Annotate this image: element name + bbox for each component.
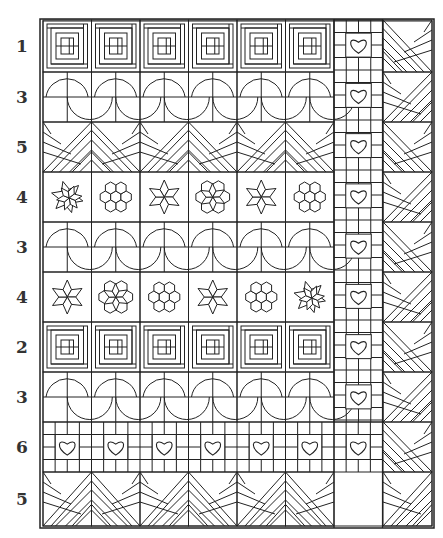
hexagon-flower-icon <box>294 182 325 212</box>
star-icon <box>150 180 179 214</box>
pinwheel-hexagon-icon <box>196 181 230 213</box>
quilt-row-3 <box>43 122 334 172</box>
row-label: 5 <box>12 489 32 509</box>
quilt-row-1 <box>43 20 334 72</box>
quilt-diagram <box>0 0 443 538</box>
diagonal-column <box>375 20 440 526</box>
star-icon <box>247 180 276 214</box>
row-label: 1 <box>12 36 32 56</box>
hexagon-flower-icon <box>100 182 131 212</box>
row-label: 5 <box>12 137 32 157</box>
row-label: 6 <box>12 437 32 457</box>
heart-column <box>334 20 383 422</box>
quilt-row-9 <box>43 422 383 472</box>
quilt-row-7 <box>43 322 334 372</box>
row-label: 3 <box>12 87 32 107</box>
row-label: 2 <box>12 337 32 357</box>
pinwheel-star-icon <box>52 181 83 212</box>
quilt-row-6 <box>43 272 334 322</box>
quilt-row-8 <box>43 372 355 422</box>
row-label: 4 <box>12 187 32 207</box>
quilt-row-4 <box>43 172 334 222</box>
pinwheel-star-icon <box>294 281 325 312</box>
hexagon-flower-icon <box>246 282 277 312</box>
quilt-row-5 <box>43 222 355 272</box>
quilt-row-2 <box>43 72 355 122</box>
row-label: 4 <box>12 287 32 307</box>
row-label: 3 <box>12 387 32 407</box>
pinwheel-hexagon-icon <box>99 281 133 313</box>
row-label: 3 <box>12 237 32 257</box>
star-icon <box>53 280 82 314</box>
hexagon-flower-icon <box>149 282 180 312</box>
star-icon <box>198 280 227 314</box>
quilt-row-10 <box>43 472 334 526</box>
